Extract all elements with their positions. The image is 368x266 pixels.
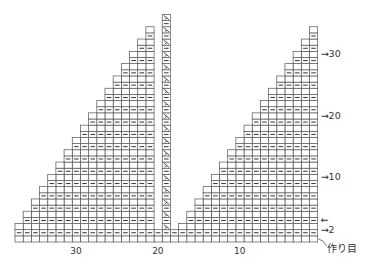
- stitch-cell: [244, 211, 252, 217]
- row-number-label: →2: [321, 225, 335, 235]
- stitch-cell: [80, 211, 88, 217]
- stitch-cell: [89, 113, 97, 119]
- stitch-cell: [269, 187, 277, 193]
- stitch-cell: [220, 199, 228, 205]
- stitch-cell: [285, 101, 293, 107]
- stitch-cell: [309, 137, 317, 143]
- stitch-cell: [244, 137, 252, 143]
- stitch-cell: [121, 150, 129, 156]
- stitch-cell: [228, 236, 236, 242]
- stitch-cell: [146, 113, 154, 119]
- stitch-cell: [97, 125, 105, 131]
- stitch-cell: [97, 211, 105, 217]
- stitch-cell: [105, 101, 113, 107]
- stitch-cell: [260, 150, 268, 156]
- stitch-cell: [220, 236, 228, 242]
- stitch-cell: [285, 236, 293, 242]
- stitch-cell: [285, 76, 293, 82]
- stitch-cell: [269, 211, 277, 217]
- stitch-cell: [301, 187, 309, 193]
- stitch-cell: [105, 236, 113, 242]
- stitch-cell: [138, 187, 146, 193]
- stitch-cell: [146, 39, 154, 45]
- stitch-cell: [80, 162, 88, 168]
- stitch-cell: [138, 174, 146, 180]
- stitch-cell: [113, 236, 121, 242]
- stitch-cell: [121, 211, 129, 217]
- stitch-cell: [105, 199, 113, 205]
- stitch-cell: [285, 125, 293, 131]
- stitch-cell: [121, 113, 129, 119]
- stitch-cell: [285, 199, 293, 205]
- stitch-cell: [138, 113, 146, 119]
- stitch-cell: [80, 187, 88, 193]
- stitch-cell: [80, 224, 88, 230]
- stitch-cell: [130, 150, 138, 156]
- stitch-cell: [89, 150, 97, 156]
- stitch-cell: [220, 187, 228, 193]
- stitch-cell: [105, 224, 113, 230]
- stitch-cell: [48, 236, 56, 242]
- stitch-cell: [121, 76, 129, 82]
- stitch-cell: [277, 199, 285, 205]
- stitch-cell: [130, 224, 138, 230]
- stitch-cell: [285, 137, 293, 143]
- stitch-cell: [260, 162, 268, 168]
- stitch-cell: [277, 150, 285, 156]
- stitch-cell: [146, 211, 154, 217]
- stitch-cell: [121, 101, 129, 107]
- stitch-cell: [252, 211, 260, 217]
- stitch-number-label: 10: [234, 246, 245, 256]
- stitch-cell: [40, 236, 48, 242]
- stitch-cell: [301, 137, 309, 143]
- stitch-cell: [97, 137, 105, 143]
- stitch-cell: [277, 187, 285, 193]
- stitch-cell: [244, 224, 252, 230]
- stitch-cell: [15, 224, 23, 230]
- stitch-cell: [293, 137, 301, 143]
- stitch-cell: [220, 211, 228, 217]
- stitch-cell: [301, 162, 309, 168]
- stitch-cell: [277, 76, 285, 82]
- stitch-cell: [309, 224, 317, 230]
- stitch-cell: [211, 174, 219, 180]
- stitch-cell: [260, 174, 268, 180]
- stitch-cell: [138, 51, 146, 57]
- stitch-cell: [293, 187, 301, 193]
- stitch-cell: [146, 51, 154, 57]
- stitch-cell: [269, 137, 277, 143]
- stitch-cell: [105, 88, 113, 94]
- stitch-cell: [228, 199, 236, 205]
- stitch-cell: [97, 187, 105, 193]
- stitch-cell: [64, 211, 72, 217]
- stitch-cell: [80, 199, 88, 205]
- stitch-cell: [130, 76, 138, 82]
- stitch-cell: [269, 236, 277, 242]
- stitch-cell: [195, 199, 203, 205]
- stitch-cell: [121, 199, 129, 205]
- stitch-cell: [48, 211, 56, 217]
- stitch-cell: [277, 125, 285, 131]
- stitch-cell: [146, 76, 154, 82]
- stitch-cell: [293, 125, 301, 131]
- stitch-cell: [244, 174, 252, 180]
- stitch-cell: [40, 199, 48, 205]
- stitch-cell: [56, 174, 64, 180]
- stitch-cell: [277, 224, 285, 230]
- stitch-cell: [48, 199, 56, 205]
- stitch-cell: [113, 125, 121, 131]
- stitch-cell: [138, 211, 146, 217]
- stitch-cell: [203, 224, 211, 230]
- stitch-cell: [285, 162, 293, 168]
- stitch-cell: [89, 162, 97, 168]
- stitch-cell: [105, 174, 113, 180]
- stitch-cell: [244, 150, 252, 156]
- stitch-cell: [277, 174, 285, 180]
- stitch-cell: [64, 174, 72, 180]
- stitch-cell: [244, 125, 252, 131]
- stitch-cell: [285, 64, 293, 70]
- stitch-cell: [309, 88, 317, 94]
- stitch-cell: [113, 76, 121, 82]
- stitch-cell: [277, 113, 285, 119]
- stitch-cell: [285, 224, 293, 230]
